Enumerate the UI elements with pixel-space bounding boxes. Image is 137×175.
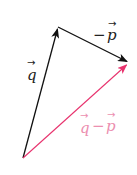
label-qmp-minus: − <box>92 117 105 135</box>
label-qmp-p-arrow: → <box>107 109 115 120</box>
label-neg-p: − p → <box>93 18 117 44</box>
label-q-arrow: → <box>27 57 35 68</box>
vector-diagram: q → − p → q → − p → <box>0 0 137 175</box>
label-q-letter: q <box>27 66 37 84</box>
label-qmp-q: q <box>80 119 90 137</box>
label-neg-p-arrow: → <box>108 18 116 29</box>
label-q-minus-p: q → − p → <box>80 109 116 137</box>
label-qmp-q-arrow: → <box>80 110 88 121</box>
vector-q <box>23 29 58 158</box>
label-q: q → <box>27 57 37 84</box>
label-neg-p-minus: − <box>93 26 106 44</box>
